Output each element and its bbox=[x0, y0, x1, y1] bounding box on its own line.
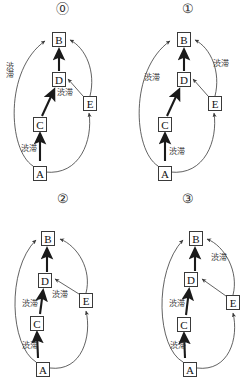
node-d: D bbox=[177, 72, 191, 87]
node-b: B bbox=[41, 231, 55, 246]
edge-a-e bbox=[50, 311, 88, 368]
edge-label-c-d: 渋滞 bbox=[22, 300, 37, 308]
edge-a-e bbox=[197, 313, 235, 368]
node-e: E bbox=[208, 96, 222, 111]
edge-label-a-c: 渋滞 bbox=[169, 148, 184, 156]
node-d: D bbox=[38, 273, 52, 288]
node-c: C bbox=[158, 117, 172, 132]
edge-label-a-b: 渋滞 bbox=[144, 74, 159, 82]
edge-label-a-c: 渋滞 bbox=[21, 145, 36, 153]
node-a: A bbox=[183, 362, 197, 377]
panel-2: ② B D E C A 渋滞 渋滞 渋滞 bbox=[0, 190, 125, 379]
panel-1-edges bbox=[125, 0, 250, 190]
edge-label-e-d: 渋滞 bbox=[57, 89, 72, 97]
panel-0: ⓪ B D E bbox=[0, 0, 125, 190]
panel-1: ① B D E C A 渋滞 渋滞 渋滞 bbox=[125, 0, 250, 190]
node-a: A bbox=[33, 166, 47, 181]
edge-e-b bbox=[207, 239, 234, 295]
edge-label-e-b: 渋滞 bbox=[213, 60, 228, 68]
node-c: C bbox=[177, 317, 191, 332]
panel-3: ③ B D E C A 渋滞 渋滞 渋滞 bbox=[125, 190, 250, 379]
edge-a-e bbox=[45, 113, 90, 172]
edge-e-b bbox=[70, 40, 92, 96]
node-c: C bbox=[30, 316, 44, 331]
panel-2-edges bbox=[0, 190, 125, 379]
panel-grid: ⓪ B D E bbox=[0, 0, 250, 379]
edge-label-c-d: 渋滞 bbox=[169, 300, 184, 308]
edge-c-d bbox=[167, 90, 179, 116]
node-e: E bbox=[226, 295, 240, 310]
node-a: A bbox=[158, 166, 172, 181]
node-c: C bbox=[33, 117, 47, 132]
edge-label-a-c: 渋滞 bbox=[170, 342, 185, 350]
edge-label-a-c: 渋滞 bbox=[22, 342, 37, 350]
edge-label-e-b: 渋滞 bbox=[211, 254, 226, 262]
edge-e-d bbox=[193, 79, 208, 96]
node-e: E bbox=[83, 96, 97, 111]
edge-a-e bbox=[170, 113, 215, 172]
edge-label-e-d: 渋滞 bbox=[52, 291, 67, 299]
edge-c-d bbox=[42, 90, 54, 116]
node-b: B bbox=[52, 32, 66, 47]
edge-label-a-b: 渋滞 bbox=[4, 62, 13, 77]
node-e: E bbox=[79, 293, 93, 308]
edge-e-d bbox=[202, 279, 226, 296]
node-b: B bbox=[177, 32, 191, 47]
edge-e-b bbox=[195, 40, 217, 96]
node-d: D bbox=[52, 72, 66, 87]
node-d: D bbox=[184, 272, 198, 287]
edge-c-d bbox=[186, 290, 189, 315]
node-b: B bbox=[189, 231, 203, 246]
edge-c-d bbox=[40, 291, 43, 314]
node-a: A bbox=[36, 362, 50, 377]
